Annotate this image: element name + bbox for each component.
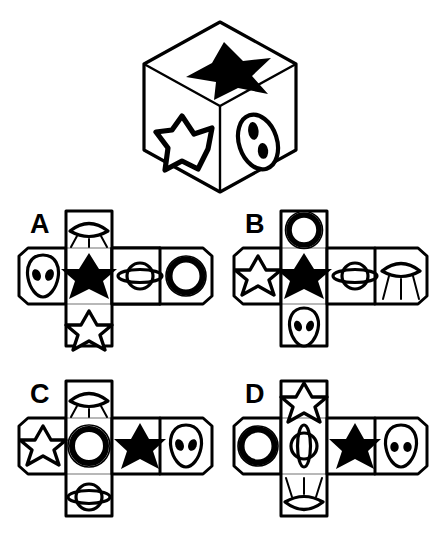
cube-drawing <box>138 18 303 196</box>
cell-b-bottom-alien-face <box>290 308 319 346</box>
cell-a-right2-ring <box>166 256 206 296</box>
option-a-letter: A <box>30 211 50 238</box>
option-d-letter: D <box>245 381 265 408</box>
cell-c-right2-alien-face <box>171 425 202 467</box>
option-d[interactable]: D <box>223 373 438 543</box>
cell-d-left-ring <box>238 426 278 466</box>
option-c[interactable]: C <box>8 373 223 543</box>
cell-c-center-ring <box>68 425 110 467</box>
reference-cube <box>138 18 303 196</box>
option-b[interactable]: B <box>223 203 438 373</box>
cell-b-top-ring <box>286 212 323 249</box>
option-a[interactable]: A <box>8 203 223 373</box>
cell-a-left-alien-face <box>28 255 59 297</box>
option-c-letter: C <box>30 381 50 408</box>
option-b-letter: B <box>245 211 265 238</box>
puzzle-canvas: A <box>0 0 441 556</box>
cell-d-right2-alien-face <box>386 425 417 467</box>
